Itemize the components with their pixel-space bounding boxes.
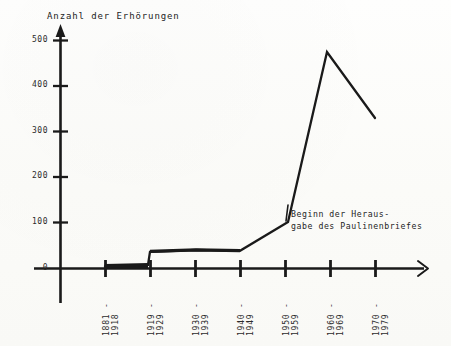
series-line — [105, 52, 375, 267]
x-tick-label-1919-1929: 1919 - 1929 — [147, 302, 165, 336]
y-axis-arrowhead-icon — [56, 24, 66, 37]
y-tick-label-100: 100 — [22, 217, 48, 226]
x-tick-label-1930-1939-end: 1939 — [201, 302, 210, 336]
chart-annotation-line-1: Beginn der Heraus- — [291, 209, 423, 221]
x-tick-label-1970-1979-start: 1970 - — [372, 302, 381, 336]
x-tick-label-1940-1949: 1940 - 1949 — [237, 302, 255, 336]
line-chart-figure: Anzahl der Erhörungen 500 400 300 200 10… — [0, 0, 451, 346]
data-series-anzahl-der-erhoerungen — [105, 52, 375, 267]
y-axis-title: Anzahl der Erhörungen — [47, 11, 180, 21]
x-tick-label-1919-1929-start: 1919 - — [147, 302, 156, 336]
x-tick-label-1950-1959-start: 1950 - — [282, 302, 291, 336]
chart-annotation: Beginn der Heraus- gabe des Paulinenbrie… — [291, 209, 423, 232]
x-tick-label-1950-1959-end: 1959 — [291, 302, 300, 336]
x-tick-label-1950-1959: 1950 - 1959 — [282, 302, 300, 336]
y-tick-label-400: 400 — [22, 80, 48, 89]
x-axis-group — [34, 260, 428, 277]
chart-canvas — [0, 0, 451, 346]
x-tick-label-1881-1918: 1881 - 1918 — [102, 302, 120, 336]
chart-annotation-line-2: gabe des Paulinenbriefes — [291, 221, 423, 233]
x-tick-label-1881-1918-start: 1881 - — [102, 302, 111, 336]
series-plateau-ink — [150, 250, 240, 252]
y-tick-label-0: 0 — [22, 263, 48, 272]
x-tick-label-1940-1949-start: 1940 - — [237, 302, 246, 336]
x-tick-label-1970-1979-end: 1979 — [381, 302, 390, 336]
x-tick-label-1960-1969: 1960 - 1969 — [327, 302, 345, 336]
y-tick-label-200: 200 — [22, 171, 48, 180]
x-tick-label-1960-1969-end: 1969 — [336, 302, 345, 336]
x-tick-label-1960-1969-start: 1960 - — [327, 302, 336, 336]
y-axis-group — [53, 24, 68, 303]
x-tick-label-1881-1918-end: 1918 — [111, 302, 120, 336]
y-tick-label-500: 500 — [22, 35, 48, 44]
x-tick-label-1930-1939: 1930 - 1939 — [192, 302, 210, 336]
y-tick-label-300: 300 — [22, 126, 48, 135]
x-tick-label-1930-1939-start: 1930 - — [192, 302, 201, 336]
x-tick-label-1940-1949-end: 1949 — [246, 302, 255, 336]
x-tick-label-1919-1929-end: 1929 — [156, 302, 165, 336]
x-tick-label-1970-1979: 1970 - 1979 — [372, 302, 390, 336]
